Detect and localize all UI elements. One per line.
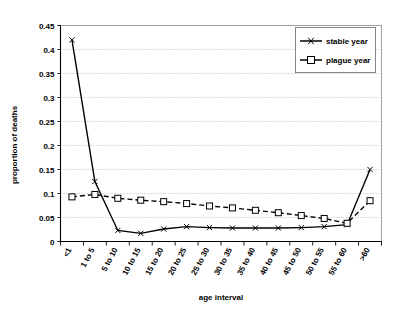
y-tick-label: 0.25	[39, 118, 55, 127]
y-tick-label: 0.3	[43, 94, 55, 103]
y-tick-label: 0.05	[39, 214, 55, 223]
data-point-marker	[92, 191, 98, 197]
y-tick-label: 0.4	[43, 46, 55, 55]
y-tick-label: 0.15	[39, 166, 55, 175]
data-point-marker	[69, 194, 75, 200]
y-tick-label: 0.1	[43, 190, 55, 199]
chart-legend: stable year plague year	[296, 28, 376, 73]
y-tick-label: 0.2	[43, 142, 55, 151]
data-point-marker	[275, 210, 281, 216]
data-point-marker	[344, 220, 350, 226]
legend-label-stable-year: stable year	[326, 37, 368, 46]
legend-marker-open-square-icon	[308, 57, 315, 64]
legend-entry-plague-year[interactable]: plague year	[300, 56, 370, 65]
data-point-marker	[184, 201, 190, 207]
y-tick-label: 0	[50, 238, 55, 247]
data-point-marker	[207, 203, 213, 209]
data-point-marker	[298, 213, 304, 219]
legend-label-plague-year: plague year	[326, 56, 370, 65]
data-point-marker	[321, 215, 327, 221]
y-axis-title: proportion of deaths	[10, 105, 19, 184]
x-axis-title: age interval	[199, 293, 243, 302]
proportion-of-deaths-line-chart: 00.050.10.150.20.250.30.350.40.45 <11 to…	[0, 0, 403, 318]
legend-box	[296, 28, 376, 73]
chart-container: 00.050.10.150.20.250.30.350.40.45 <11 to…	[0, 0, 403, 318]
data-point-marker	[229, 205, 235, 211]
data-point-marker	[252, 207, 258, 213]
data-point-marker	[115, 195, 121, 201]
y-tick-label: 0.45	[39, 22, 55, 31]
data-point-marker	[161, 199, 167, 205]
y-tick-label: 0.35	[39, 70, 55, 79]
data-point-marker	[138, 197, 144, 203]
data-point-marker	[367, 198, 373, 204]
